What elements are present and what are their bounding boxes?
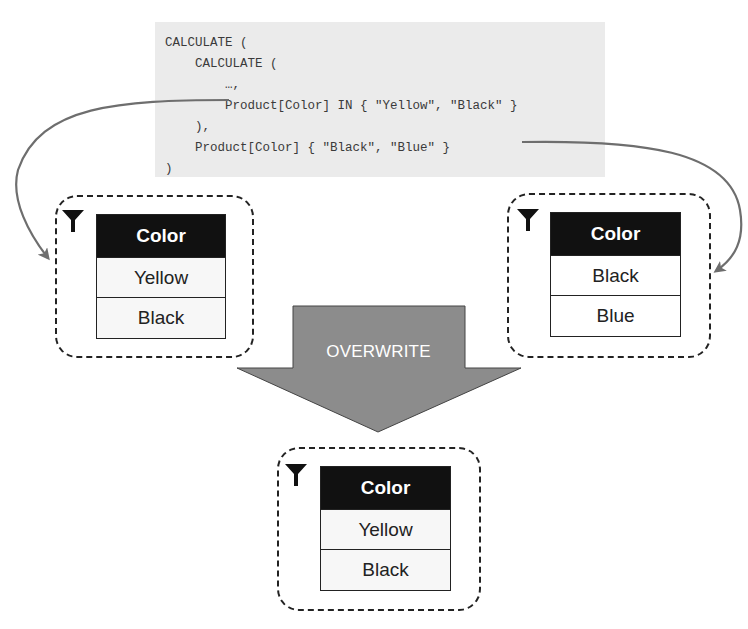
funnel-icon <box>62 210 84 234</box>
result-filter-table: Color Yellow Black <box>320 466 451 591</box>
table-row: Yellow <box>97 258 225 298</box>
column-header: Color <box>321 467 450 510</box>
overwrite-label: OVERWRITE <box>292 342 465 362</box>
inner-filter-table: Color Yellow Black <box>96 214 226 339</box>
table-row: Black <box>97 298 225 338</box>
table-row: Yellow <box>321 510 450 550</box>
overwrite-arrow <box>237 306 521 432</box>
table-row: Black <box>551 256 680 296</box>
table-row: Black <box>321 550 450 590</box>
column-header: Color <box>97 215 225 258</box>
column-header: Color <box>551 213 680 256</box>
table-row: Blue <box>551 296 680 336</box>
funnel-icon <box>285 464 307 488</box>
funnel-icon <box>517 209 539 233</box>
outer-filter-table: Color Black Blue <box>550 212 681 337</box>
